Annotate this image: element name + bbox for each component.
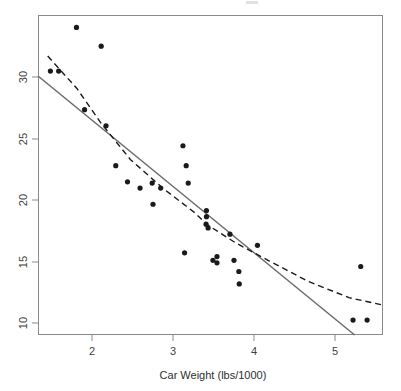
- data-point: [137, 185, 142, 190]
- data-point: [82, 107, 87, 112]
- data-point: [125, 179, 130, 184]
- data-point: [227, 232, 232, 237]
- data-point: [205, 225, 210, 230]
- plot-canvas: 10 15 20 25 30 2 3 4 5 Car Weight (lbs/1…: [0, 0, 401, 391]
- data-point: [214, 254, 219, 259]
- y-tick-label-2: 20: [17, 194, 29, 206]
- y-tick-label-3: 25: [17, 133, 29, 145]
- data-point: [182, 250, 187, 255]
- y-tick-label-1: 15: [17, 256, 29, 268]
- x-axis-title: Car Weight (lbs/1000): [160, 369, 267, 381]
- data-point: [113, 163, 118, 168]
- data-point: [214, 260, 219, 265]
- data-point: [350, 317, 355, 322]
- data-point: [158, 185, 163, 190]
- data-point: [186, 180, 191, 185]
- data-point: [150, 202, 155, 207]
- y-tick-label-4: 30: [17, 71, 29, 83]
- data-point: [48, 68, 53, 73]
- data-point: [204, 208, 209, 213]
- data-point: [204, 214, 209, 219]
- x-tick-label-0: 2: [89, 345, 95, 357]
- data-point: [150, 180, 155, 185]
- data-point: [56, 68, 61, 73]
- y-tick-label-0: 10: [17, 317, 29, 329]
- data-point: [184, 163, 189, 168]
- data-point: [236, 269, 241, 274]
- x-tick-label-3: 5: [332, 345, 338, 357]
- data-point: [103, 123, 108, 128]
- data-point: [180, 143, 185, 148]
- data-point: [74, 25, 79, 30]
- x-tick-label-2: 4: [251, 345, 257, 357]
- data-point: [255, 243, 260, 248]
- top-artifact: [246, 1, 258, 4]
- data-point: [237, 281, 242, 286]
- data-point: [99, 44, 104, 49]
- x-tick-label-1: 3: [170, 345, 176, 357]
- data-point: [358, 264, 363, 269]
- figure-background: [0, 0, 401, 391]
- data-point: [365, 317, 370, 322]
- data-point: [231, 258, 236, 263]
- scatter-plot-figure: 10 15 20 25 30 2 3 4 5 Car Weight (lbs/1…: [0, 0, 401, 391]
